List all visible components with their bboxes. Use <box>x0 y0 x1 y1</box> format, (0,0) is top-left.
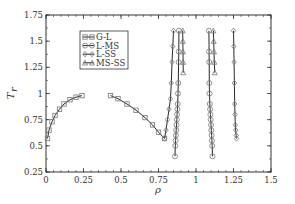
y-tick-label: 1 <box>38 89 43 99</box>
y-tick-label: 1.25 <box>24 62 43 72</box>
svg-text:r: r <box>8 86 19 92</box>
y-tick-label: 1.75 <box>24 10 43 20</box>
y-tick-labels: 0.250.50.7511.251.51.75 <box>24 10 43 177</box>
x-tick-label: 1 <box>193 175 198 185</box>
series-l-ms <box>173 28 216 159</box>
x-tick-label: 0.5 <box>114 175 128 185</box>
x-tick-label: 0.25 <box>74 175 93 185</box>
legend-label: MS-SS <box>96 58 125 68</box>
phase-diagram-chart: 00.250.50.7511.251.5 0.250.50.7511.251.5… <box>0 0 295 204</box>
x-tick-label: 1.5 <box>264 175 278 185</box>
y-tick-label: 0.5 <box>29 141 43 151</box>
y-axis-label: T r <box>5 86 19 99</box>
series-g-l <box>45 93 166 140</box>
x-tick-label: 1.25 <box>224 175 243 185</box>
series-layer <box>45 28 238 159</box>
y-tick-label: 0.25 <box>24 167 43 177</box>
legend: G-LL-MSL-SSMS-SS <box>80 31 128 69</box>
y-tick-label: 1.5 <box>29 36 43 46</box>
x-tick-label: 0 <box>43 175 48 185</box>
x-axis-label: ρ <box>154 184 161 195</box>
y-tick-label: 0.75 <box>24 115 43 125</box>
